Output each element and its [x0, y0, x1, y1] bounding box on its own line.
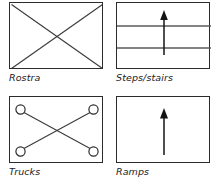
legend-label-ramps: Ramps — [116, 166, 212, 177]
legend-cell-rostra: Rostra — [9, 2, 105, 83]
legend-label-rostra: Rostra — [9, 72, 105, 83]
rostra-symbol-icon — [9, 2, 103, 69]
steps-stairs-symbol-icon — [116, 2, 210, 69]
legend-cell-steps-stairs: Steps/stairs — [116, 2, 212, 83]
ramps-symbol-icon — [116, 96, 210, 163]
symbol-legend-grid: Rostra Steps/stairs Trucks — [0, 0, 216, 184]
legend-cell-trucks: Trucks — [9, 96, 105, 177]
trucks-symbol-icon — [9, 96, 103, 163]
legend-cell-ramps: Ramps — [116, 96, 212, 177]
legend-label-trucks: Trucks — [9, 166, 105, 177]
legend-label-steps-stairs: Steps/stairs — [116, 72, 212, 83]
